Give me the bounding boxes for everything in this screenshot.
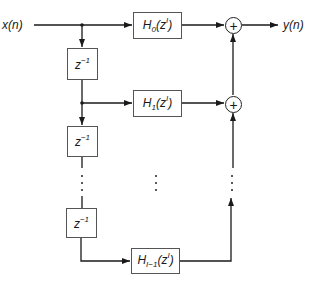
delay-block-3: z−1 bbox=[66, 208, 97, 238]
filter-block-h0: H0(zI) bbox=[133, 12, 182, 39]
filter-label: HI−1(zI) bbox=[137, 252, 173, 269]
filter-label: H1(zI) bbox=[143, 95, 172, 112]
delay-block-1: z−1 bbox=[67, 48, 98, 80]
output-label: y(n) bbox=[283, 19, 304, 31]
filter-block-hi-1: HI−1(zI) bbox=[131, 248, 180, 274]
plus-icon: + bbox=[229, 19, 237, 33]
adder-1: + bbox=[225, 96, 242, 113]
filter-label: H0(zI) bbox=[143, 17, 172, 34]
delay-block-2: z−1 bbox=[67, 126, 98, 157]
filter-block-h1: H1(zI) bbox=[133, 90, 182, 117]
input-label: x(n) bbox=[2, 19, 23, 31]
delay-label: z−1 bbox=[75, 57, 90, 72]
delay-label: z−1 bbox=[74, 216, 89, 231]
adder-0: + bbox=[225, 17, 242, 34]
plus-icon: + bbox=[229, 98, 237, 112]
delay-label: z−1 bbox=[75, 134, 90, 149]
